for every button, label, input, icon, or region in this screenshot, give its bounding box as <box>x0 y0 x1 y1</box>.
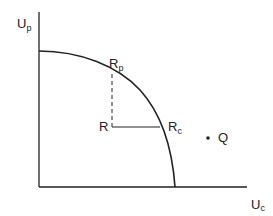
y-axis-label: Up <box>17 16 31 33</box>
point-q-label: Q <box>218 130 228 145</box>
point-rp-label: Rp <box>109 56 123 73</box>
point-rc-label: Rc <box>168 119 182 136</box>
point-q-dot <box>206 136 210 140</box>
utility-frontier-diagram: Up Uc Rp R Rc Q <box>0 0 273 216</box>
x-axis-label: Uc <box>251 197 265 213</box>
point-r-label: R <box>99 119 108 134</box>
